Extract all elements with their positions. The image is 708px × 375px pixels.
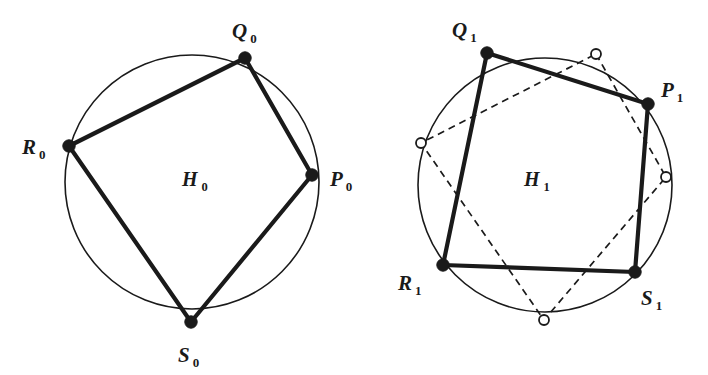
vertex-s0-marker [185, 316, 197, 328]
vertex-label-q1: Q1 [452, 18, 477, 45]
vertex-label-q0: Q0 [232, 19, 257, 46]
vertex-q1-marker [481, 47, 493, 59]
vertex-p1-marker [642, 98, 654, 110]
vertex-s1-marker [629, 266, 641, 278]
vertex-label-p0: P0 [329, 167, 352, 194]
region-label-h1: H1 [523, 168, 550, 194]
hollow-point-left [416, 138, 426, 148]
hollow-point-right [661, 172, 671, 182]
panel-left: P0 Q0 R0 S0 H0 [21, 19, 352, 370]
vertex-label-p1: P1 [660, 78, 683, 105]
vertex-p0-marker [306, 169, 318, 181]
figure-root: P0 Q0 R0 S0 H0 [0, 0, 708, 375]
quadrilateral-h0 [69, 58, 312, 322]
vertex-label-s0: S0 [178, 343, 199, 370]
vertex-r0-marker [63, 140, 75, 152]
vertex-label-r1: R1 [397, 271, 422, 298]
diagram-canvas: P0 Q0 R0 S0 H0 [0, 0, 708, 375]
hollow-point-bottom [539, 315, 549, 325]
vertex-q0-marker [239, 52, 251, 64]
hollow-point-top [591, 49, 601, 59]
vertex-label-s1: S1 [641, 286, 662, 313]
region-label-h0: H0 [181, 168, 208, 194]
panel-right: P1 Q1 R1 S1 H1 [397, 18, 683, 325]
quadrilateral-h1 [443, 53, 648, 272]
vertex-r1-marker [437, 259, 449, 271]
vertex-label-r0: R0 [21, 135, 46, 162]
